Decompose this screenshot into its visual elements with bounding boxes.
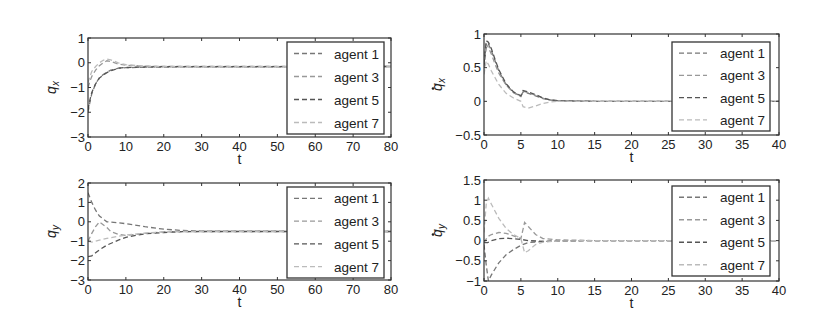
legend-label: agent 1: [720, 46, 765, 61]
x-tick-label: 25: [661, 283, 675, 298]
x-tick-label: 10: [119, 139, 133, 154]
legend-label: agent 7: [334, 116, 379, 131]
x-tick-label: 0: [480, 137, 487, 152]
x-tick-label: 15: [587, 283, 601, 298]
x-tick-label: 50: [270, 139, 284, 154]
y-tick-label: 2: [78, 176, 85, 191]
x-tick-label: 0: [84, 139, 91, 154]
x-tick-label: 35: [735, 283, 749, 298]
y-tick-label: 1: [474, 27, 481, 42]
y-axis-label: qx: [429, 77, 447, 91]
legend-label: agent 3: [334, 214, 379, 229]
x-tick-label: 20: [157, 282, 171, 297]
legend: agent 1agent 3agent 5agent 7: [287, 42, 384, 134]
y-tick-label: 1.5: [463, 173, 481, 188]
legend-label: agent 5: [334, 237, 379, 252]
x-tick-label: 60: [308, 282, 322, 297]
x-tick-label: 5: [517, 137, 524, 152]
x-tick-label: 25: [661, 137, 675, 152]
legend-label: agent 5: [720, 91, 765, 106]
x-tick-label: 35: [735, 137, 749, 152]
y-tick-label: 1: [78, 195, 85, 210]
derivative-dot-icon: [432, 233, 435, 236]
legend-label: agent 3: [720, 213, 765, 228]
legend-label: agent 3: [720, 68, 765, 83]
legend-label: agent 7: [720, 113, 765, 128]
legend: agent 1agent 3agent 5agent 7: [672, 42, 770, 131]
legend-label: agent 5: [720, 235, 765, 250]
legend-label: agent 1: [334, 47, 379, 62]
subplot-qx-dot: 0510152025303540−0.500.51tqxagent 1agent…: [429, 27, 786, 166]
x-tick-label: 60: [308, 139, 322, 154]
x-axis-label: t: [238, 294, 242, 310]
x-tick-label: 70: [346, 139, 360, 154]
legend-label: agent 7: [720, 258, 765, 273]
x-tick-label: 30: [698, 137, 712, 152]
x-tick-label: 70: [346, 282, 360, 297]
y-tick-label: −2: [70, 105, 85, 120]
legend: agent 1agent 3agent 5agent 7: [287, 187, 384, 278]
y-axis-label: qy: [429, 223, 447, 237]
legend-label: agent 1: [720, 190, 765, 205]
x-tick-label: 50: [270, 282, 284, 297]
x-tick-label: 10: [551, 283, 565, 298]
y-tick-label: −1: [70, 80, 85, 95]
x-axis-label: t: [238, 151, 242, 167]
x-tick-label: 0: [84, 282, 91, 297]
legend-label: agent 5: [334, 93, 379, 108]
legend: agent 1agent 3agent 5agent 7: [672, 186, 770, 276]
y-tick-label: −0.5: [455, 128, 481, 143]
legend-label: agent 7: [334, 260, 379, 275]
y-tick-label: −0.5: [455, 253, 481, 268]
legend-label: agent 1: [334, 191, 379, 206]
x-tick-label: 30: [194, 282, 208, 297]
y-axis-label: qx: [43, 80, 61, 94]
figure: 01020304050607080−3−2−101tqxagent 1agent…: [0, 0, 825, 329]
x-tick-label: 80: [384, 139, 398, 154]
y-tick-label: −1: [70, 234, 85, 249]
y-tick-label: 0.5: [463, 213, 481, 228]
y-tick-label: 1: [474, 193, 481, 208]
x-tick-label: 20: [157, 139, 171, 154]
y-tick-label: 0: [78, 214, 85, 229]
subplot-qy: 01020304050607080−3−2−1012tqyagent 1agen…: [43, 176, 398, 311]
derivative-dot-icon: [432, 87, 435, 90]
y-tick-label: 0.5: [463, 60, 481, 75]
x-tick-label: 10: [119, 282, 133, 297]
x-tick-label: 30: [698, 283, 712, 298]
x-tick-label: 40: [772, 137, 786, 152]
y-axis-label: qy: [43, 224, 61, 238]
x-axis-label: t: [630, 149, 634, 165]
x-tick-label: 15: [587, 137, 601, 152]
x-tick-label: 10: [551, 137, 565, 152]
x-tick-label: 0: [480, 283, 487, 298]
x-tick-label: 80: [384, 282, 398, 297]
legend-label: agent 3: [334, 70, 379, 85]
y-tick-label: −1: [466, 274, 481, 289]
y-tick-label: −2: [70, 253, 85, 268]
y-tick-label: 0: [78, 55, 85, 70]
x-tick-label: 40: [772, 283, 786, 298]
subplot-qy-dot: 0510152025303540−1−0.500.511.5tqyagent 1…: [429, 173, 786, 312]
x-axis-label: t: [630, 295, 634, 311]
x-tick-label: 30: [194, 139, 208, 154]
y-tick-label: 0: [474, 94, 481, 109]
subplot-qx: 01020304050607080−3−2−101tqxagent 1agent…: [43, 31, 398, 168]
y-tick-label: −3: [70, 130, 85, 145]
y-tick-label: −3: [70, 273, 85, 288]
y-tick-label: 1: [78, 31, 85, 46]
x-tick-label: 5: [517, 283, 524, 298]
y-tick-label: 0: [474, 233, 481, 248]
